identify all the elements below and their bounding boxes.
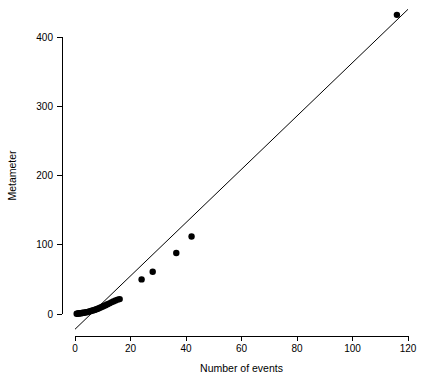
plot-canvas: 0100200300400 Metameter 020406080100120 … — [0, 0, 438, 387]
data-point — [173, 250, 179, 256]
y-axis-group: 0100200300400 Metameter — [6, 32, 62, 320]
y-axis-ticks: 0100200300400 — [36, 32, 62, 320]
x-tick-label: 60 — [236, 343, 248, 354]
y-tick-label: 400 — [36, 32, 53, 43]
scatter-plot-figure: 0100200300400 Metameter 020406080100120 … — [0, 0, 438, 387]
x-tick-label: 0 — [72, 343, 78, 354]
y-axis-title: Metameter — [6, 150, 18, 201]
x-tick-label: 100 — [344, 343, 361, 354]
data-point — [138, 276, 144, 282]
data-points-group — [73, 12, 400, 317]
x-axis-group: 020406080100120 Number of events — [72, 336, 417, 374]
y-tick-label: 100 — [36, 239, 53, 250]
data-point — [116, 296, 122, 302]
data-point — [150, 269, 156, 275]
fit-line-group — [75, 9, 408, 329]
data-point — [394, 12, 400, 18]
y-tick-label: 300 — [36, 101, 53, 112]
x-tick-label: 80 — [291, 343, 303, 354]
x-tick-label: 120 — [400, 343, 417, 354]
fitted-regression-line — [75, 9, 408, 329]
y-tick-label: 200 — [36, 170, 53, 181]
data-point — [188, 233, 194, 239]
y-tick-label: 0 — [47, 309, 53, 320]
x-axis-title: Number of events — [200, 362, 283, 374]
x-tick-label: 40 — [180, 343, 192, 354]
x-tick-label: 20 — [125, 343, 137, 354]
x-axis-ticks: 020406080100120 — [72, 336, 417, 354]
